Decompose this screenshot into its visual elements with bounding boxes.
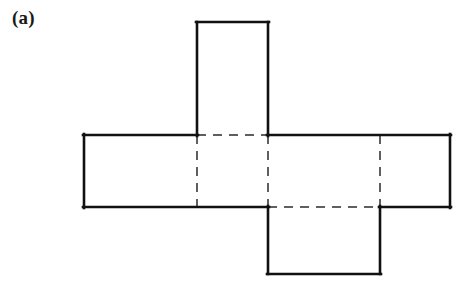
face-top-flap [197, 22, 268, 135]
face-center [197, 135, 268, 207]
figure-container: (a) [0, 0, 459, 290]
face-middle-right [268, 135, 380, 207]
box-net-diagram [0, 0, 459, 290]
face-left [84, 135, 197, 207]
face-right [380, 135, 450, 207]
face-bottom-flap [268, 207, 380, 274]
